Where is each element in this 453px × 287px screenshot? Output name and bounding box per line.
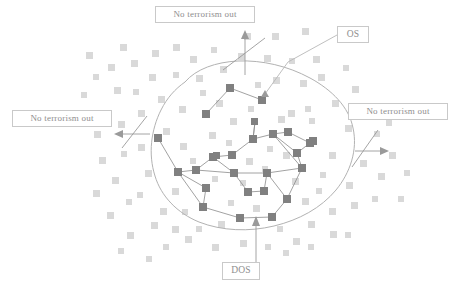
label-no-terrorism-out-right: No terrorism out (348, 103, 448, 120)
diagram-svg (0, 0, 453, 287)
os-triangle-marker (261, 90, 269, 97)
network-node (154, 134, 162, 142)
network-node (236, 214, 244, 222)
network-node (251, 118, 258, 125)
network-node (199, 203, 207, 211)
network-node (213, 152, 220, 159)
network-node (244, 188, 252, 196)
network-node (260, 187, 268, 195)
label-os: OS (337, 26, 369, 43)
diagram-canvas: No terrorism out No terrorism out No ter… (0, 0, 453, 287)
network-node (202, 184, 210, 192)
network-nodes (154, 84, 317, 222)
network-node (202, 110, 210, 118)
blocked-arrow-right (352, 130, 389, 167)
blocked-arrow-top (223, 30, 265, 75)
network-node (192, 166, 200, 174)
label-no-terrorism-out-top: No terrorism out (155, 6, 255, 23)
network-node (284, 128, 292, 136)
network-node (258, 96, 266, 104)
network-node (226, 84, 234, 92)
network-node (309, 137, 317, 145)
network-node (298, 164, 306, 172)
inbound-arrow-dos (252, 216, 260, 262)
network-node (263, 169, 271, 177)
label-dos: DOS (222, 262, 260, 280)
network-node (268, 213, 276, 221)
network-node (174, 168, 182, 176)
blocked-arrow-left (114, 116, 150, 148)
network-node (269, 130, 277, 138)
population-squares (72, 28, 410, 262)
network-node (228, 151, 236, 159)
network-node (230, 169, 238, 177)
network-node (293, 149, 301, 157)
network-node (283, 195, 291, 203)
label-no-terrorism-out-left: No terrorism out (12, 110, 112, 127)
network-node (249, 135, 257, 143)
